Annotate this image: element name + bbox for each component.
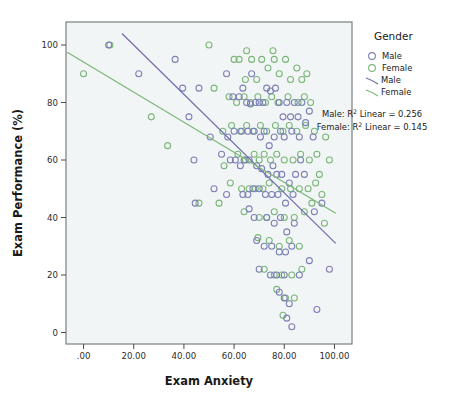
y-tick-label: 60 [47, 155, 58, 165]
y-tick-label: 100 [42, 40, 58, 50]
y-axis-ticks [61, 45, 66, 333]
x-tick-label: 80.00 [272, 351, 297, 361]
x-tick-label: 100.00 [319, 351, 349, 361]
plot-area-background [66, 22, 352, 344]
legend-marker-female-icon [369, 65, 376, 72]
x-axis-title: Exam Anxiety [165, 374, 254, 388]
legend-marker-male-icon [369, 53, 376, 60]
legend-line-male-icon [366, 78, 378, 84]
legend-label-female-line: Female [381, 87, 411, 97]
x-axis-tick-labels: .0020.0040.0060.0080.00100.00 [77, 351, 350, 361]
legend-title: Gender [374, 30, 413, 42]
x-axis-ticks [84, 344, 335, 349]
scatter-plot: .0020.0040.0060.0080.00100.00 0204060801… [0, 0, 475, 401]
x-tick-label: 20.00 [121, 351, 146, 361]
x-tick-label: .00 [77, 351, 91, 361]
x-tick-label: 60.00 [222, 351, 247, 361]
legend-r2-female: Female: R2 Linear = 0.145 [317, 121, 428, 132]
legend-line-female-icon [366, 90, 378, 96]
y-tick-label: 20 [47, 270, 58, 280]
y-tick-label: 40 [47, 213, 58, 223]
x-tick-label: 40.00 [172, 351, 197, 361]
chart-screenshot: .0020.0040.0060.0080.00100.00 0204060801… [0, 0, 475, 401]
y-axis-tick-labels: 020406080100 [42, 40, 58, 338]
legend-label-male-line: Male [381, 75, 401, 85]
y-tick-label: 80 [47, 98, 58, 108]
y-axis-title: Exam Performance (%) [11, 109, 25, 257]
y-tick-label: 0 [53, 328, 58, 338]
legend-label-male-marker: Male [382, 51, 402, 61]
legend-label-female-marker: Female [382, 63, 412, 73]
legend-r2-male: Male: R2 Linear = 0.256 [322, 108, 422, 119]
